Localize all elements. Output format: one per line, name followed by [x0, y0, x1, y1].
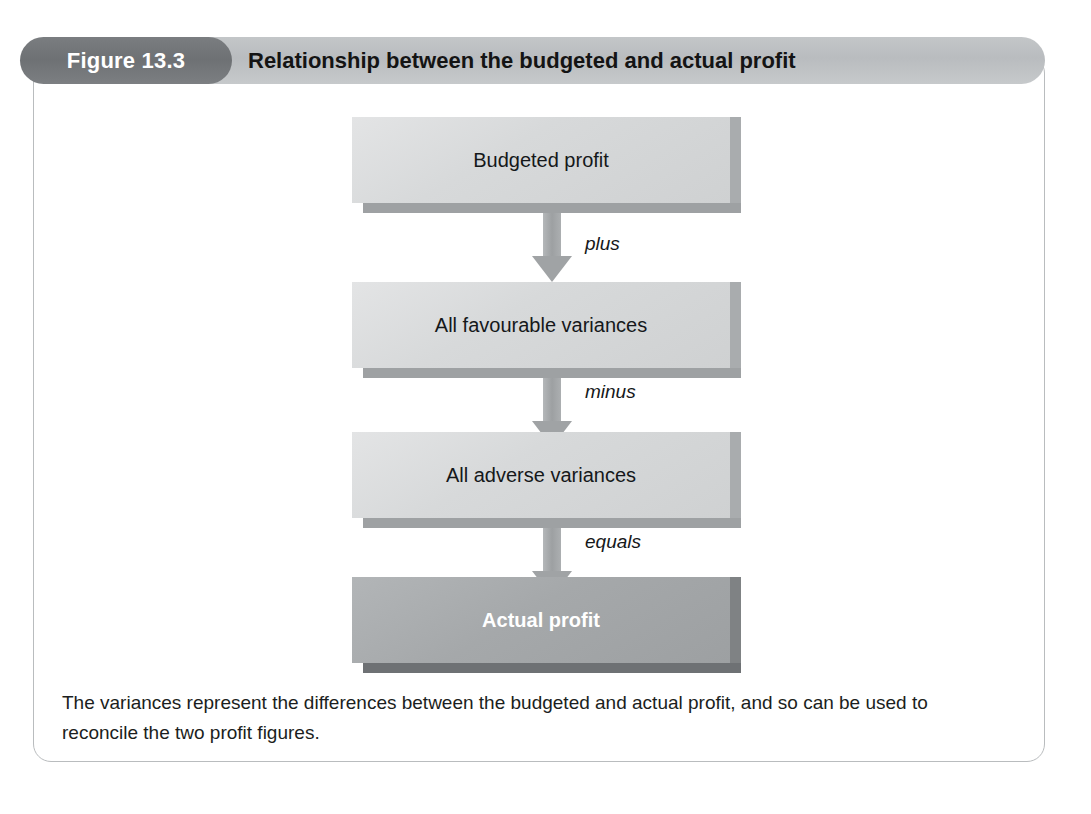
figure-number-label: Figure 13.3	[67, 48, 185, 74]
figure-title: Relationship between the budgeted and ac…	[248, 37, 796, 84]
figure-frame	[33, 55, 1045, 762]
figure-number-badge: Figure 13.3	[20, 37, 232, 84]
figure-caption: The variances represent the differences …	[62, 688, 1002, 748]
